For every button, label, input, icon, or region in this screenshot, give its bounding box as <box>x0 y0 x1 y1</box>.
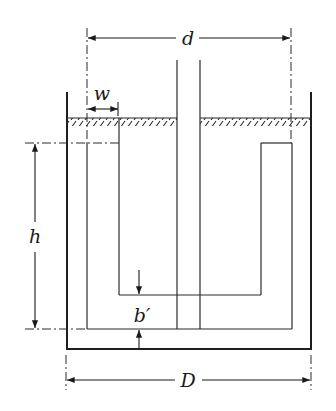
tank-outer-walls <box>67 92 311 349</box>
central-pipe <box>177 60 200 329</box>
tank-diagram: d w h b′ D <box>0 0 336 411</box>
inner-u-channel <box>119 118 292 295</box>
label-w: w <box>94 82 110 104</box>
label-h: h <box>29 225 41 247</box>
label-b-prime: b′ <box>134 304 151 326</box>
label-D: D <box>179 369 195 391</box>
liquid-surface <box>67 118 311 126</box>
label-d: d <box>182 27 194 49</box>
dimension-w <box>88 102 118 116</box>
